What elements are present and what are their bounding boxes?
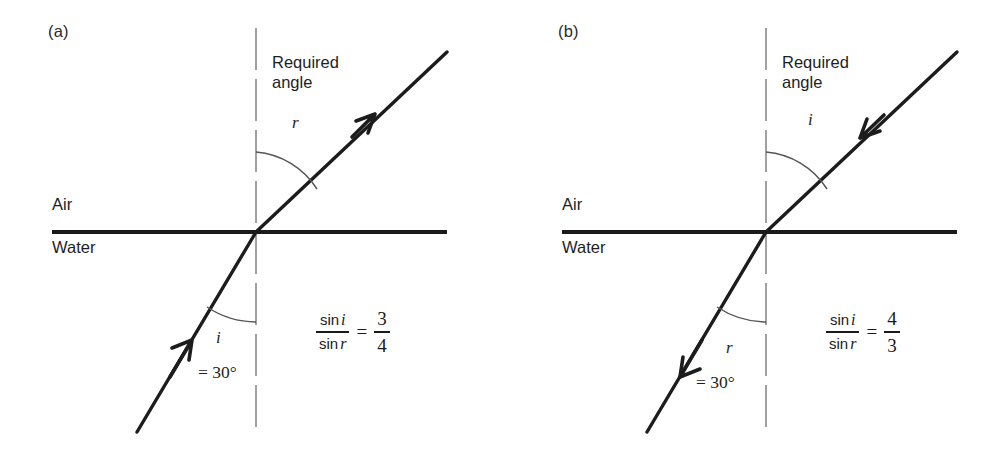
ratio-denominator-b: sinr (826, 335, 859, 353)
sin-text-num-a: sin (320, 311, 339, 328)
medium-upper-label-a: Air (52, 195, 72, 214)
panel-label-a: (a) (48, 22, 69, 41)
sin-text-den-a: sin (319, 335, 338, 352)
ray-lower-a (137, 232, 256, 432)
result-denominator-b: 3 (884, 335, 900, 356)
equals-sign-b: = (859, 321, 884, 343)
required-angle-label-b: Required angle (782, 52, 849, 92)
upper-angle-symbol-a: r (292, 113, 299, 133)
lower-angle-value-b: = 30° (696, 372, 735, 393)
fraction-bar-b (826, 331, 859, 333)
result-denominator-a: 4 (374, 335, 390, 356)
panel-b-drawing (510, 0, 996, 452)
fraction-bar-a (316, 331, 349, 333)
ratio-fraction-b: sini sinr (826, 311, 859, 352)
equals-sign-a: = (349, 321, 374, 343)
ratio-fraction-a: sini sinr (316, 311, 349, 352)
ratio-numerator-a: sini (317, 311, 349, 329)
result-numerator-b: 4 (884, 308, 900, 329)
panel-a: (a) Required angle r Air Water i = 30° s… (0, 0, 498, 452)
panel-label-b: (b) (558, 22, 579, 41)
refraction-figure: (a) Required angle r Air Water i = 30° s… (0, 0, 996, 452)
required-angle-line2: angle (272, 72, 339, 92)
panel-b: (b) Required angle i Air Water r = 30° s… (510, 0, 996, 452)
snell-equation-b: sini sinr = 4 3 (826, 308, 900, 356)
upper-angle-symbol-b: i (808, 110, 813, 130)
result-fraction-a: 3 4 (374, 308, 390, 356)
lower-angle-symbol-a: i (216, 328, 221, 348)
sin-text-den-b: sin (829, 335, 848, 352)
required-angle-line2-b: angle (782, 72, 849, 92)
snell-equation-a: sini sinr = 3 4 (316, 308, 390, 356)
result-fraction-b: 4 3 (884, 308, 900, 356)
medium-lower-label-a: Water (52, 238, 95, 257)
angle-sym-den-b: r (848, 335, 856, 352)
result-numerator-a: 3 (374, 308, 390, 329)
arrowhead-lower-a (170, 340, 192, 377)
lower-angle-value-a: = 30° (198, 362, 237, 383)
angle-sym-den-a: r (338, 335, 346, 352)
angle-arc-lower-b (717, 307, 766, 322)
required-angle-line1: Required (272, 52, 339, 72)
medium-lower-label-b: Water (562, 238, 605, 257)
ratio-denominator-a: sinr (316, 335, 349, 353)
angle-sym-num-a: i (339, 311, 345, 328)
arrowhead-upper-a (352, 114, 375, 137)
sin-text-num-b: sin (830, 311, 849, 328)
ray-lower-b (647, 232, 766, 432)
result-fraction-bar-b (884, 331, 900, 333)
medium-upper-label-b: Air (562, 195, 582, 214)
angle-arc-lower-a (207, 307, 256, 322)
lower-angle-symbol-b: r (726, 338, 733, 358)
required-angle-line1-b: Required (782, 52, 849, 72)
angle-sym-num-b: i (849, 311, 855, 328)
panel-a-drawing (0, 0, 498, 452)
ratio-numerator-b: sini (827, 311, 859, 329)
result-fraction-bar-a (374, 331, 390, 333)
required-angle-label-a: Required angle (272, 52, 339, 92)
